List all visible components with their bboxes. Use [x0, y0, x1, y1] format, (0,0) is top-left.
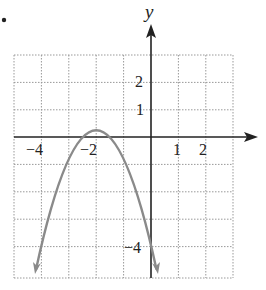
y-axis-label: y [145, 2, 153, 21]
y-tick-label-neg4: −4 [124, 240, 141, 256]
x-tick-label-1: 1 [173, 142, 181, 158]
x-tick-label-neg2: −2 [80, 142, 97, 158]
y-tick-label-1: 1 [136, 102, 144, 118]
x-tick-label-2: 2 [199, 142, 207, 158]
y-tick-label-2: 2 [135, 74, 143, 90]
x-tick-label-neg4: −4 [26, 142, 43, 158]
problem-bullet [2, 18, 6, 22]
